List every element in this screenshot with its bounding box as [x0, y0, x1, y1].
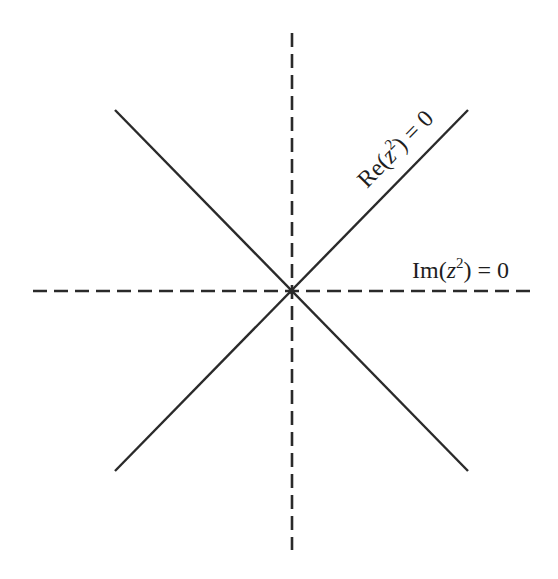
origin-point	[289, 288, 295, 294]
im-label-prefix: Im(	[412, 257, 447, 283]
im-label-suffix: ) = 0	[464, 257, 510, 283]
im-label-var: z	[446, 257, 457, 283]
svg-text:Re(z2) = 0: Re(z2) = 0	[351, 104, 439, 193]
im-label: Im(z2) = 0	[412, 255, 509, 283]
im-label-exp: 2	[456, 255, 464, 271]
re-label: Re(z2) = 0	[351, 104, 439, 193]
diagram-canvas: Re(z2) = 0 Im(z2) = 0	[0, 0, 558, 579]
